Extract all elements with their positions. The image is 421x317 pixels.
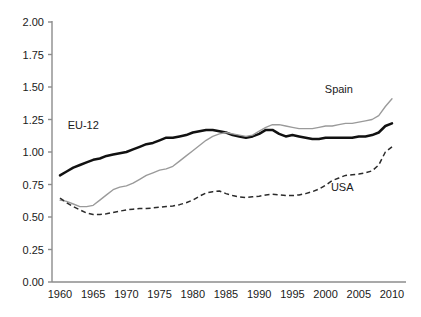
x-tick-label: 1965	[81, 288, 105, 300]
x-tick-label: 1960	[48, 288, 72, 300]
line-chart: 0.000.250.500.751.001.251.501.752.00 196…	[0, 0, 421, 317]
x-tick-label: 1975	[147, 288, 171, 300]
chart-container: 0.000.250.500.751.001.251.501.752.00 196…	[0, 0, 421, 317]
series-label-eu-12: EU-12	[68, 119, 99, 131]
x-tick-label: 1970	[114, 288, 138, 300]
y-tick-label: 1.50	[23, 81, 44, 93]
y-tick-label: 1.00	[23, 146, 44, 158]
series-label-spain: Spain	[325, 83, 353, 95]
y-tick-label: 2.00	[23, 16, 44, 28]
x-tick-label: 1995	[280, 288, 304, 300]
x-tick-label: 2000	[313, 288, 337, 300]
x-tick-label-group: 1960196519701975198019851990199520002005…	[48, 288, 404, 300]
y-tick-label: 1.75	[23, 49, 44, 61]
x-tick-label: 2005	[347, 288, 371, 300]
y-tick-label: 1.25	[23, 114, 44, 126]
y-tick-label: 0.75	[23, 179, 44, 191]
x-tick-label: 2010	[380, 288, 404, 300]
series-group	[60, 99, 392, 215]
x-axis: 1960196519701975198019851990199520002005…	[48, 282, 406, 300]
x-tick-label: 1980	[181, 288, 205, 300]
series-label-usa: USA	[331, 181, 354, 193]
y-tick-label: 0.00	[23, 276, 44, 288]
series-line-eu-12	[60, 123, 392, 175]
y-axis: 0.000.250.500.751.001.251.501.752.00	[23, 16, 52, 288]
y-tick-label: 0.25	[23, 244, 44, 256]
y-tick-label-group: 0.000.250.500.751.001.251.501.752.00	[23, 16, 44, 288]
x-tick-label: 1990	[247, 288, 271, 300]
x-tick-label: 1985	[214, 288, 238, 300]
y-tick-label: 0.50	[23, 211, 44, 223]
